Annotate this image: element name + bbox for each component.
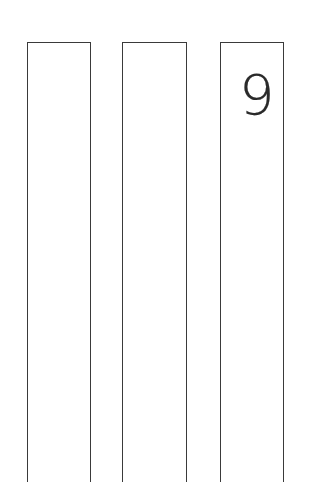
slot-3[interactable]: 9 [220,42,284,482]
slot-2[interactable] [122,42,187,482]
slot-1[interactable] [27,42,91,482]
slot-3-digit: 9 [239,67,275,123]
